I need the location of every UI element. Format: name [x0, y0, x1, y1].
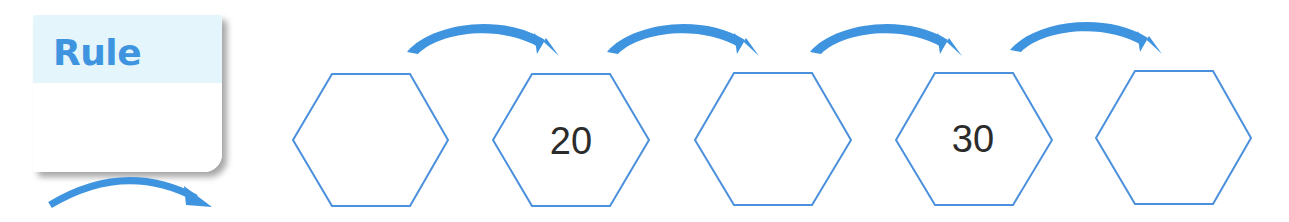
hop-arrow-icon	[407, 24, 559, 56]
hop-arrow-icon	[810, 24, 962, 56]
hexagon-4-value: 30	[923, 119, 1023, 159]
hexagon-1[interactable]	[293, 74, 448, 206]
sequence-graphics	[0, 0, 1289, 222]
hop-arrow-icon	[1010, 22, 1162, 54]
hexagon-2-value: 20	[521, 121, 621, 161]
number-sequence-activity: Rule	[0, 0, 1289, 222]
hop-arrow-icon	[607, 24, 759, 56]
rule-arrow-icon	[50, 181, 212, 207]
hexagon-5[interactable]	[1096, 71, 1251, 204]
hexagon-3[interactable]	[695, 73, 851, 205]
